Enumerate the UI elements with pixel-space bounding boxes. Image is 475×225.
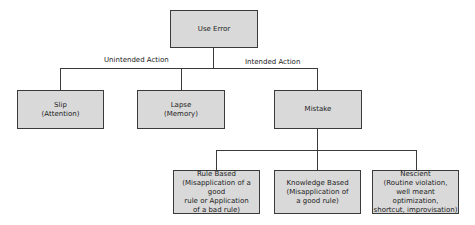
node-lapse: Lapse (Memory) (137, 90, 225, 129)
node-slip-title: Slip (54, 101, 67, 110)
use-error-taxonomy-diagram: Use Error Unintended Action Intended Act… (0, 0, 475, 225)
edge-label-unintended: Unintended Action (104, 56, 169, 65)
node-knowledge-based-title: Knowledge Based (286, 179, 348, 188)
node-nescient-title: Nescient (400, 170, 430, 179)
node-knowledge-based-line: a good rule) (296, 197, 339, 206)
edge-label-intended: Intended Action (245, 58, 300, 67)
connector-mistake-stem (317, 129, 318, 151)
node-rule-based: Rule Based (Misapplication of a good rul… (173, 170, 260, 214)
connector-rule-drop (216, 150, 217, 170)
node-rule-based-title: Rule Based (197, 170, 236, 179)
node-lapse-title: Lapse (171, 101, 192, 110)
node-lapse-subtitle: (Memory) (164, 110, 198, 119)
node-mistake-title: Mistake (305, 105, 332, 114)
node-rule-based-line: of a bad rule) (193, 206, 240, 215)
node-knowledge-based-line: (Misapplication of (287, 188, 349, 197)
node-nescient-line: (Routine violation, (384, 179, 448, 188)
connector-level1-bar (60, 68, 318, 69)
connector-knowledge-drop (317, 150, 318, 170)
node-nescient-line: well meant optimization, (373, 188, 458, 206)
node-knowledge-based: Knowledge Based (Misapplication of a goo… (274, 170, 361, 214)
connector-mistake-drop (317, 68, 318, 90)
connector-root-stem (213, 48, 214, 69)
connector-slip-drop (60, 68, 61, 90)
connector-nescient-drop (416, 150, 417, 170)
node-rule-based-line: rule or Application (184, 197, 248, 206)
node-nescient-line: shortcut, improvisation) (374, 206, 458, 215)
node-use-error: Use Error (170, 10, 258, 48)
node-use-error-label: Use Error (198, 25, 230, 34)
node-nescient: Nescient (Routine violation, well meant … (372, 170, 459, 214)
node-rule-based-line: (Misapplication of a good (174, 179, 259, 197)
connector-lapse-drop (181, 68, 182, 90)
node-slip-subtitle: (Attention) (42, 110, 80, 119)
node-slip: Slip (Attention) (17, 90, 104, 129)
node-mistake: Mistake (274, 90, 362, 129)
